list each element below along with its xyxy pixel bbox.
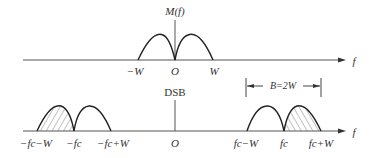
upper-sideband-negative — [74, 106, 111, 131]
baseband-spectrum — [23, 20, 346, 63]
bottom-tick-neg-fc-minus-w: −fc−W — [20, 138, 52, 149]
baseband-lobe-negative — [138, 34, 175, 60]
top-axis-arrow-icon — [338, 58, 346, 63]
bottom-tick-neg-fc: −fc — [66, 138, 81, 149]
baseband-lobe-positive — [175, 34, 213, 60]
bottom-tick-fc: fc — [280, 138, 288, 149]
bottom-axis-arrow-icon — [338, 129, 346, 134]
bottom-axis-label: f — [352, 127, 355, 138]
bandwidth-label: B=2W — [270, 81, 296, 91]
bottom-tick-fc-minus-w: fc−W — [234, 138, 259, 149]
baseband-title: M(f) — [165, 6, 185, 17]
lower-sideband-negative-hatched — [37, 106, 74, 131]
top-tick-w: W — [209, 66, 218, 77]
top-axis-label: f — [352, 56, 355, 67]
dsb-spectrum-diagram: M(f) f −W O W DSB B=2W f −fc−W −fc −fc+W… — [0, 0, 379, 158]
bracket-right-arrow-icon — [313, 84, 320, 88]
lower-sideband-positive — [247, 106, 284, 131]
dsb-title: DSB — [164, 87, 185, 98]
diagram-canvas — [0, 0, 379, 158]
top-tick-neg-w: −W — [127, 66, 144, 77]
bottom-tick-neg-fc-plus-w: −fc+W — [97, 138, 129, 149]
top-tick-origin: O — [171, 66, 179, 77]
bracket-left-arrow-icon — [247, 84, 254, 88]
bottom-tick-fc-plus-w: fc+W — [309, 138, 334, 149]
bottom-tick-origin: O — [171, 138, 179, 149]
upper-sideband-positive-hatched — [284, 106, 321, 131]
